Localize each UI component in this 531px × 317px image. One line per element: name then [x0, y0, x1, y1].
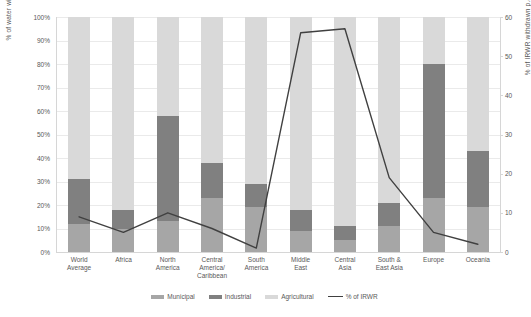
x-axis-category-label-line: East Asia: [362, 264, 416, 272]
legend-item[interactable]: Municipal: [151, 293, 194, 300]
y-axis-left-tick-label: 50%: [24, 131, 50, 138]
legend-label: % of IRWR: [346, 293, 378, 300]
y-axis-left-title: % of water withdrawals by sector: [5, 0, 12, 60]
x-axis-category-label: Oceania: [451, 256, 505, 264]
y-axis-left-tick-label: 70%: [24, 84, 50, 91]
legend-label: Municipal: [167, 293, 194, 300]
irwr-line-series: [57, 17, 500, 252]
legend-color-swatch: [265, 295, 278, 299]
y-axis-left-tick-label: 80%: [24, 61, 50, 68]
x-axis-category-label-line: Caribbean: [185, 272, 239, 280]
y-axis-right-tick-label: 20: [505, 170, 527, 177]
y-axis-left-tick-label: 10%: [24, 225, 50, 232]
x-axis-category-label-line: Oceania: [451, 256, 505, 264]
plot-area: [57, 17, 500, 252]
y-axis-left-tick-label: 60%: [24, 108, 50, 115]
legend-label: Industrial: [225, 293, 251, 300]
legend-label: Agricultural: [281, 293, 314, 300]
y-axis-left-tick-label: 0%: [24, 249, 50, 256]
legend-item[interactable]: % of IRWR: [328, 293, 378, 300]
x-axis-line: [57, 252, 500, 253]
y-axis-right-tick-label: 40: [505, 92, 527, 99]
y-axis-right-tick-label: 60: [505, 14, 527, 21]
legend-item[interactable]: Agricultural: [265, 293, 314, 300]
legend-item[interactable]: Industrial: [209, 293, 251, 300]
legend-color-swatch: [209, 295, 222, 299]
y-axis-right-tick-label: 0: [505, 249, 527, 256]
y-axis-right-tick-label: 10: [505, 209, 527, 216]
y-axis-left-tick-label: 40%: [24, 155, 50, 162]
y-axis-left-tick-label: 90%: [24, 37, 50, 44]
irwr-polyline: [79, 29, 478, 248]
y-axis-left-tick-label: 20%: [24, 202, 50, 209]
y-axis-left-tick-label: 100%: [24, 14, 50, 21]
y-axis-left-tick-label: 30%: [24, 178, 50, 185]
x-axis-category-label-line: Average: [52, 264, 106, 272]
legend-line-marker: [328, 296, 343, 298]
y-axis-right-tick-label: 30: [505, 131, 527, 138]
y-axis-right-tick-label: 50: [505, 53, 527, 60]
y-axis-right-line: [500, 17, 501, 253]
chart-legend: MunicipalIndustrialAgricultural% of IRWR: [0, 293, 529, 300]
legend-color-swatch: [151, 295, 164, 299]
